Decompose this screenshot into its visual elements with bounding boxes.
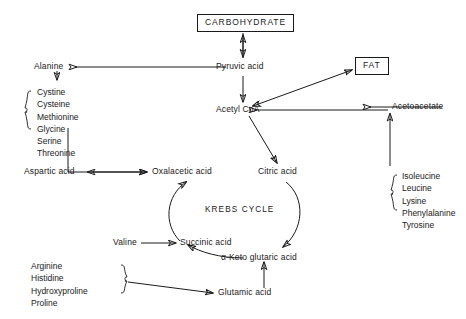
- brace-acetylcoa-precursors: [391, 175, 397, 210]
- arrow-acetylcoa-fat: [253, 70, 352, 106]
- node-glutamic-acid: Glutamic acid: [218, 288, 271, 297]
- node-aspartic-acid: Aspartic acid: [24, 167, 75, 176]
- list-item: Serine: [37, 135, 79, 147]
- node-alanine: Alanine: [34, 62, 63, 71]
- brace-oxalacetic-precursors: [25, 91, 31, 129]
- list-item: Methionine: [37, 111, 79, 123]
- list-acetylcoa-precursors: Isoleucine Leucine Lysine Phenylalanine …: [402, 170, 455, 231]
- list-item: Isoleucine: [402, 170, 455, 182]
- list-item: Phenylalanine: [402, 207, 455, 219]
- node-carbohydrate: CARBOHYDRATE: [197, 14, 294, 32]
- list-item: Proline: [31, 297, 88, 309]
- metabolic-pathway-diagram: CARBOHYDRATE FAT Pyruvic acid Acetyl CoA…: [0, 0, 466, 319]
- arc-citric-to-ketoglutaric: [283, 182, 300, 247]
- list-item: Hydroxyproline: [31, 285, 88, 297]
- brace-glutamic-precursors: [121, 265, 127, 293]
- list-oxalacetic-precursors: Cystine Cysteine Methionine Glycine Seri…: [37, 86, 79, 160]
- node-valine: Valine: [113, 238, 137, 247]
- arrow-acetylcoa-to-citric: [249, 116, 277, 163]
- node-fat: FAT: [355, 57, 389, 75]
- node-acetoacetate: Acetoacetate: [392, 102, 443, 111]
- node-keto-glutaric-acid: α-Keto glutaric acid: [221, 253, 297, 262]
- list-glutamic-precursors: Arginine Histidine Hydroxyproline Prolin…: [31, 260, 88, 309]
- node-succinic-acid: Succinic acid: [180, 238, 232, 247]
- node-oxalacetic-acid: Oxalacetic acid: [152, 167, 212, 176]
- arc-oxalacetic-to-succinic: [169, 182, 186, 241]
- node-citric-acid: Citric acid: [258, 167, 297, 176]
- list-item: Histidine: [31, 272, 88, 284]
- cycle-center-label: KREBS CYCLE: [205, 206, 274, 215]
- list-item: Tyrosine: [402, 219, 455, 231]
- arrow-aminoacids-to-glutamic: [128, 282, 213, 293]
- list-item: Threonine: [37, 147, 79, 159]
- node-pyruvic-acid: Pyruvic acid: [216, 62, 264, 71]
- list-item: Glycine: [37, 123, 79, 135]
- list-item: Cysteine: [37, 98, 79, 110]
- list-item: Lysine: [402, 195, 455, 207]
- list-item: Leucine: [402, 182, 455, 194]
- list-item: Cystine: [37, 86, 79, 98]
- list-item: Arginine: [31, 260, 88, 272]
- node-acetyl-coa: Acetyl CoA: [216, 105, 260, 114]
